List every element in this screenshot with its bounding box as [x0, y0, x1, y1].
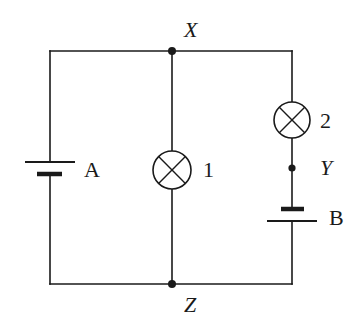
node-x-label: X [183, 17, 199, 42]
node-z-dot [168, 280, 176, 288]
cell-a-label: A [84, 157, 100, 182]
node-x-dot [168, 47, 176, 55]
lamp-1 [153, 151, 191, 189]
lamp-1-label: 1 [203, 157, 214, 182]
node-y-label: Y [320, 155, 335, 180]
cell-a [25, 162, 75, 174]
cell-b-label: B [329, 205, 344, 230]
lamp-2-label: 2 [320, 108, 331, 133]
circuit-diagram: A 1 2 B X Y Z [0, 0, 360, 328]
node-y-dot [288, 164, 295, 171]
node-z-label: Z [184, 292, 197, 317]
cell-b [267, 209, 317, 221]
lamp-2 [274, 102, 310, 138]
